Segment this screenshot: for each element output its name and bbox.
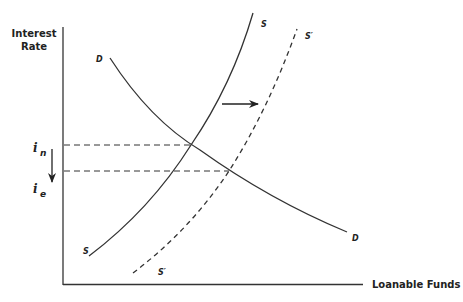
supply-curve [89,13,253,256]
rate-label-i-e-sub: e [40,189,46,199]
shifted-supply-label-bottom: S′ [158,268,167,277]
supply-label-top: S [261,20,267,29]
rate-label-i-n-sub: n [40,148,46,158]
loanable-funds-diagram: Interest Rate Loanable Funds D D S S S′ … [0,0,463,302]
rate-label-i-n: i [33,141,38,155]
shifted-supply-curve [133,29,297,273]
x-axis-title: Loanable Funds [372,279,460,290]
shifted-supply-label-top: S′ [305,32,314,41]
supply-label-bottom: S [83,247,89,256]
y-axis-title-line1: Interest [12,28,57,39]
y-axis-title-line2: Rate [21,41,47,52]
demand-label-top: D [96,55,103,64]
demand-label-bottom: D [352,234,359,243]
rate-label-i-e: i [33,182,38,196]
